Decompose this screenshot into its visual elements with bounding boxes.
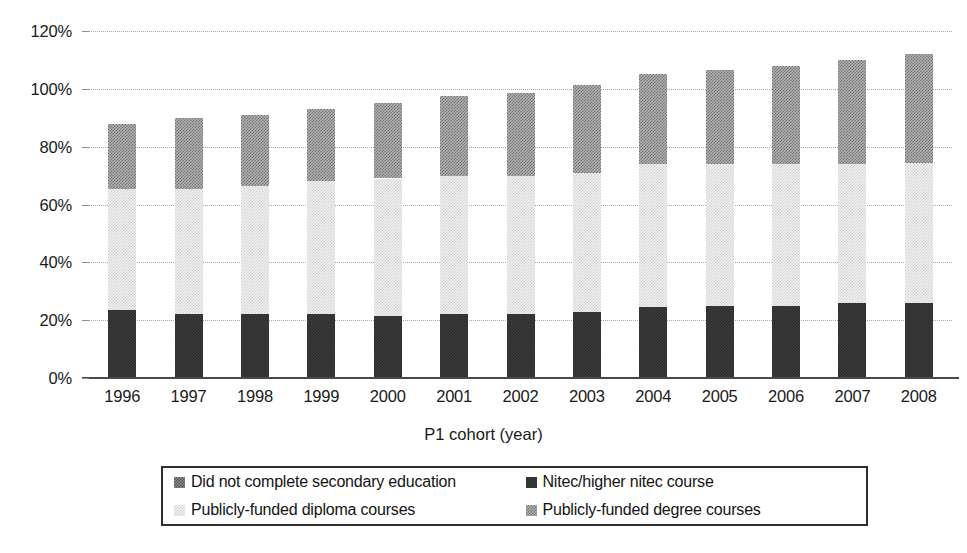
y-axis-tick-label: 0% [49,369,72,388]
bar-segment-nitec[interactable] [175,314,203,378]
bar-segment-nitec[interactable] [440,314,468,378]
y-axis-tick-label: 20% [40,311,72,330]
bar-segment-degree[interactable] [905,54,933,162]
x-axis-tick-label: 2000 [370,387,406,406]
bar-segment-diploma[interactable] [507,176,535,315]
y-axis-tick-label: 80% [40,137,72,156]
legend-item-label: Did not complete secondary education [191,473,456,491]
bar-segment-nitec[interactable] [772,306,800,378]
legend-item[interactable]: Nitec/higher nitec course [515,473,867,491]
bar-segment-nitec[interactable] [307,314,335,378]
x-axis-tick-label: 2006 [768,387,804,406]
bar-segment-degree[interactable] [241,115,269,186]
bar-segment-nitec[interactable] [374,316,402,378]
legend-item[interactable]: Publicly-funded degree courses [515,501,867,519]
y-axis-labels: 0%20%40%60%80%100%120% [0,0,82,410]
bar-segment-degree[interactable] [307,109,335,181]
bar-group[interactable] [108,31,136,378]
bar-segment-degree[interactable] [374,103,402,178]
x-axis-tick-label: 2002 [503,387,539,406]
y-axis-tick [82,147,89,148]
x-axis-labels: 1996199719981999200020012002200320042005… [89,387,952,413]
bar-segment-nitec[interactable] [241,314,269,378]
x-axis-tick-label: 1999 [303,387,339,406]
bar-segment-degree[interactable] [108,124,136,189]
bar-group[interactable] [507,31,535,378]
y-axis-tick-label: 40% [40,253,72,272]
chart-figure: 0%20%40%60%80%100%120% 19961997199819992… [0,0,967,553]
y-axis-tick [82,89,89,90]
bar-group[interactable] [440,31,468,378]
bar-group[interactable] [639,31,667,378]
y-axis-tick-label: 120% [31,22,72,41]
bar-segment-nitec[interactable] [706,306,734,378]
legend-item-label: Publicly-funded diploma courses [191,501,415,519]
bar-segment-nitec[interactable] [838,303,866,378]
bar-segment-degree[interactable] [175,118,203,189]
bar-segment-nitec[interactable] [573,312,601,379]
bar-series-container [89,31,952,378]
bar-segment-nitec[interactable] [108,310,136,378]
x-axis-tick-label: 1996 [104,387,140,406]
bar-group[interactable] [905,31,933,378]
bar-group[interactable] [241,31,269,378]
bar-group[interactable] [573,31,601,378]
bar-segment-diploma[interactable] [772,164,800,306]
legend-swatch-nocomplete-icon [174,477,185,488]
bar-group[interactable] [706,31,734,378]
bar-segment-degree[interactable] [440,96,468,176]
bar-segment-nitec[interactable] [905,303,933,378]
bar-segment-degree[interactable] [838,60,866,164]
bar-segment-nitec[interactable] [639,307,667,378]
x-axis-line [82,377,959,379]
legend-swatch-nitec-icon [526,477,537,488]
y-axis-tick [82,320,89,321]
bar-group[interactable] [307,31,335,378]
legend-item-label: Nitec/higher nitec course [543,473,714,491]
legend-swatch-diploma-icon [174,505,185,516]
x-axis-tick-label: 1998 [237,387,273,406]
bar-segment-diploma[interactable] [573,173,601,312]
legend-item[interactable]: Did not complete secondary education [163,473,515,491]
bar-group[interactable] [772,31,800,378]
x-axis-tick-label: 2003 [569,387,605,406]
bar-segment-diploma[interactable] [706,164,734,306]
bar-segment-diploma[interactable] [374,179,402,316]
bar-segment-diploma[interactable] [905,163,933,303]
bar-segment-diploma[interactable] [108,189,136,310]
bar-group[interactable] [374,31,402,378]
y-axis-tick [82,378,89,379]
bar-segment-diploma[interactable] [440,176,468,315]
bar-group[interactable] [838,31,866,378]
bar-segment-degree[interactable] [507,93,535,175]
y-axis-tick [82,262,89,263]
bar-segment-degree[interactable] [772,66,800,164]
bar-segment-degree[interactable] [573,85,601,173]
y-axis-tick-label: 60% [40,195,72,214]
bar-segment-diploma[interactable] [241,186,269,315]
bar-segment-diploma[interactable] [307,181,335,314]
x-axis-tick-label: 1997 [171,387,207,406]
legend-item-label: Publicly-funded degree courses [543,501,761,519]
bar-segment-degree[interactable] [639,74,667,164]
bar-group[interactable] [175,31,203,378]
bar-segment-diploma[interactable] [639,164,667,307]
x-axis-tick-label: 2001 [436,387,472,406]
legend-swatch-degree-icon [526,505,537,516]
x-axis-tick-label: 2005 [702,387,738,406]
x-axis-tick-label: 2007 [834,387,870,406]
chart-legend: Did not complete secondary educationNite… [161,466,868,526]
bar-segment-diploma[interactable] [175,189,203,315]
x-axis-tick-label: 2008 [901,387,937,406]
x-axis-tick-label: 2004 [635,387,671,406]
legend-item[interactable]: Publicly-funded diploma courses [163,501,515,519]
bar-segment-degree[interactable] [706,70,734,164]
y-axis-tick-label: 100% [31,79,72,98]
y-axis-tick [82,205,89,206]
bar-segment-diploma[interactable] [838,164,866,303]
x-axis-title: P1 cohort (year) [0,425,967,444]
bar-segment-nitec[interactable] [507,314,535,378]
y-axis-tick [82,31,89,32]
